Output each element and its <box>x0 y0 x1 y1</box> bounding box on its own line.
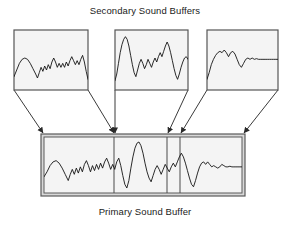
primary-buffer-inner-frame <box>44 137 242 193</box>
primary-buffer-title: Primary Sound Buffer <box>0 206 290 217</box>
connector-3-right <box>244 90 278 133</box>
sound-buffer-diagram: Secondary Sound Buffers <box>0 0 290 230</box>
secondary-buffer-3-frame <box>207 30 278 90</box>
secondary-buffer-2 <box>115 30 188 90</box>
secondary-buffer-3 <box>207 30 278 90</box>
connector-1-right <box>88 90 114 133</box>
primary-buffer <box>41 134 245 196</box>
diagram-canvas <box>0 0 290 230</box>
connector-lines-group <box>14 90 278 133</box>
secondary-buffer-2-frame <box>115 30 188 90</box>
secondary-buffers-group <box>14 30 278 90</box>
connector-1-left <box>14 90 43 133</box>
secondary-buffer-1-frame <box>14 30 88 90</box>
secondary-buffer-1 <box>14 30 88 90</box>
